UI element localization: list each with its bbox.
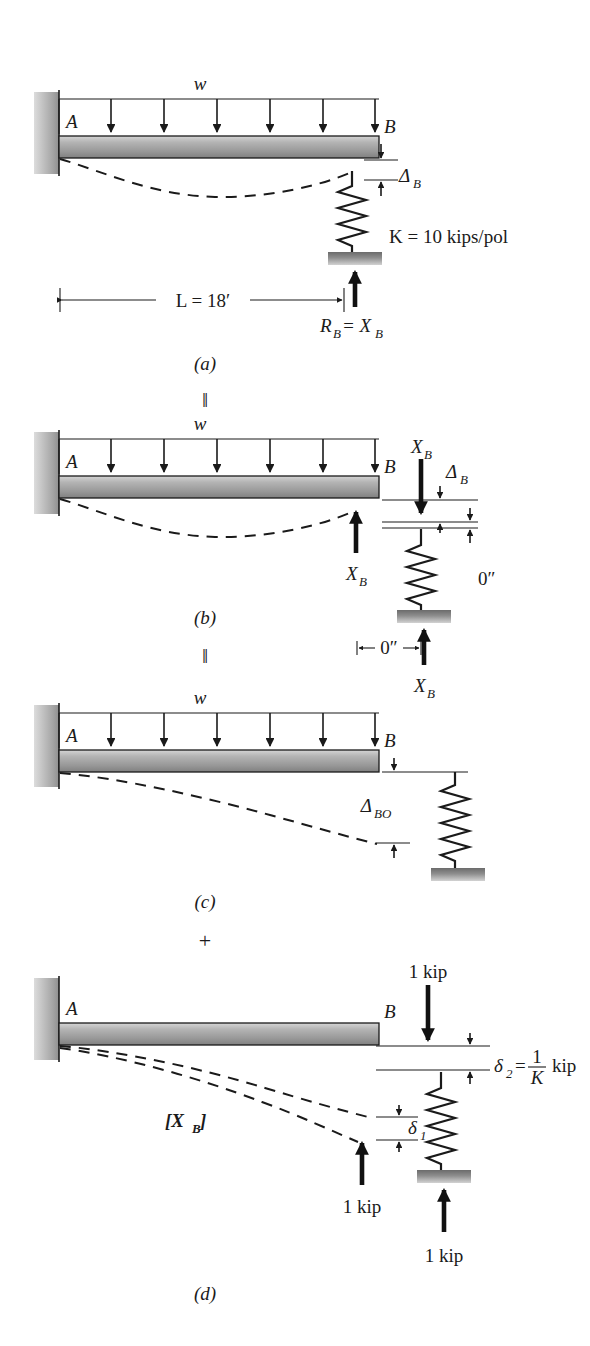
delta2-numerator-d: 1 bbox=[532, 1046, 542, 1067]
span-label-a: L = 18′ bbox=[176, 290, 230, 311]
beam-a bbox=[59, 136, 379, 158]
node-label-c-right: B bbox=[384, 730, 396, 751]
beam-spring-figure: w A B Δ B K = 10 kips/pol L = 18′ bbox=[0, 0, 590, 1346]
force-label-top-d: 1 kip bbox=[409, 961, 448, 982]
beam-b bbox=[59, 476, 379, 498]
node-label-c-left: A bbox=[64, 725, 78, 746]
operator-b-c: ‖ bbox=[202, 643, 208, 668]
bracket-open: [X bbox=[165, 1110, 185, 1131]
load-label-a: w bbox=[194, 73, 207, 94]
force-top-x: X bbox=[410, 436, 424, 457]
delta1-sub-d: 1 bbox=[420, 1128, 427, 1143]
delta-b-label-b: Δ bbox=[445, 461, 457, 482]
panel-tag-b: (b) bbox=[194, 607, 216, 629]
force-beam-x: X bbox=[345, 563, 359, 584]
gap-horizontal-label-b: 0″ bbox=[380, 637, 397, 658]
node-label-b-left: A bbox=[64, 451, 78, 472]
bracket-close: ] bbox=[199, 1110, 206, 1131]
reaction-eq: = X bbox=[342, 315, 373, 336]
force-top-x-sub: B bbox=[424, 447, 432, 462]
delta-bo-sub-c: BO bbox=[374, 806, 392, 821]
node-label-a-right: B bbox=[384, 116, 396, 137]
reaction-r-sub: B bbox=[333, 326, 341, 341]
force-label-bottom-d: 1 kip bbox=[425, 1245, 464, 1266]
wall-support-a bbox=[34, 92, 59, 174]
reaction-r: R bbox=[319, 315, 332, 336]
force-beam-x-sub: B bbox=[359, 574, 367, 589]
delta1-label-d: δ bbox=[408, 1117, 418, 1138]
node-label-a-left: A bbox=[64, 111, 78, 132]
force-bottom-x-sub: B bbox=[427, 686, 435, 701]
delta2-equals-d: = bbox=[515, 1055, 526, 1076]
beam-c bbox=[59, 750, 379, 772]
spring-base-pad-b bbox=[397, 610, 451, 623]
delta-b-sub-a: B bbox=[413, 176, 421, 191]
wall-support-c bbox=[34, 705, 59, 787]
load-label-b: w bbox=[194, 413, 207, 434]
delta-b-label-a: Δ bbox=[398, 165, 410, 186]
node-label-d-right: B bbox=[384, 1001, 396, 1022]
delta-bo-label-c: Δ bbox=[360, 795, 372, 816]
spring-stiffness-label-a: K = 10 kips/pol bbox=[389, 226, 508, 247]
node-label-d-left: A bbox=[64, 998, 78, 1019]
delta-b-sub-b: B bbox=[460, 472, 468, 487]
delta2-unit-d: kip bbox=[552, 1055, 576, 1076]
beam-d bbox=[59, 1023, 379, 1045]
load-label-c: w bbox=[194, 687, 207, 708]
force-label-beam-d: 1 kip bbox=[343, 1196, 382, 1217]
wall-support-b bbox=[34, 432, 59, 514]
spring-base-pad-d bbox=[417, 1170, 471, 1183]
node-label-b-right: B bbox=[384, 456, 396, 477]
panel-tag-d: (d) bbox=[194, 1283, 216, 1305]
spring-base-pad-a bbox=[328, 252, 382, 265]
reaction-eq-sub: B bbox=[375, 326, 383, 341]
delta2-label-d: δ bbox=[494, 1055, 504, 1076]
force-bottom-x: X bbox=[413, 675, 427, 696]
wall-support-d bbox=[34, 978, 59, 1060]
operator-c-d: + bbox=[199, 928, 211, 953]
spring-base-pad-c bbox=[431, 868, 485, 881]
delta2-sub-d: 2 bbox=[506, 1066, 513, 1081]
panel-tag-a: (a) bbox=[194, 353, 216, 375]
delta2-denominator-d: K bbox=[530, 1067, 545, 1088]
figure-background bbox=[0, 0, 590, 1346]
panel-tag-c: (c) bbox=[194, 891, 215, 913]
gap-vertical-label-b: 0″ bbox=[478, 568, 495, 589]
operator-a-b: ‖ bbox=[202, 387, 208, 412]
